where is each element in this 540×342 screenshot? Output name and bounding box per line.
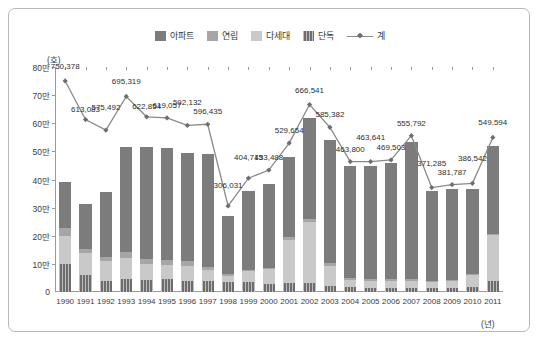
data-label: 555,792 xyxy=(397,119,426,128)
legend-item-계[interactable]: 계 xyxy=(347,31,385,41)
x-axis-tick-mark xyxy=(208,67,209,70)
x-axis-tick-mark xyxy=(228,67,229,70)
total-line-marker xyxy=(470,181,475,186)
legend-label: 아파트 xyxy=(170,31,194,41)
x-axis-tick-mark xyxy=(452,67,453,70)
legend-item-아파트[interactable]: 아파트 xyxy=(155,31,194,41)
x-axis-tick-label: 1994 xyxy=(138,292,156,306)
x-axis-tick-label: 2001 xyxy=(280,292,298,306)
data-label: 306,031 xyxy=(214,181,243,190)
total-line-marker xyxy=(490,135,495,140)
total-line-marker xyxy=(429,185,434,190)
x-axis-tick-mark xyxy=(167,67,168,70)
legend-swatch-icon xyxy=(303,31,314,41)
legend-label: 계 xyxy=(377,31,385,41)
data-label: 433,488 xyxy=(254,153,283,162)
x-axis-tick-label: 1992 xyxy=(97,292,115,306)
legend-label: 연립 xyxy=(222,31,238,41)
data-label: 381,787 xyxy=(438,168,467,177)
x-axis-tick-mark xyxy=(269,67,270,70)
x-axis-tick-label: 2008 xyxy=(423,292,441,306)
x-axis-tick-label: 2009 xyxy=(443,292,461,306)
x-axis-tick-mark xyxy=(126,67,127,70)
x-axis-tick-label: 2004 xyxy=(341,292,359,306)
x-axis-tick-mark xyxy=(350,67,351,70)
x-axis-tick-mark xyxy=(147,67,148,70)
total-line-marker xyxy=(185,123,190,128)
data-label: 529,654 xyxy=(275,126,304,135)
x-axis-tick-mark xyxy=(432,67,433,70)
x-axis-tick-mark xyxy=(86,67,87,70)
data-label: 371,285 xyxy=(417,159,446,168)
y-axis-tick-label: 0 xyxy=(45,287,55,297)
x-axis-tick-mark xyxy=(391,67,392,70)
x-axis-tick-label: 1996 xyxy=(178,292,196,306)
x-axis-tick-mark xyxy=(106,67,107,70)
x-axis-tick-label: 2007 xyxy=(402,292,420,306)
data-label: 549,594 xyxy=(478,118,507,127)
x-axis-tick-mark xyxy=(289,67,290,70)
legend-item-연립[interactable]: 연립 xyxy=(207,31,238,41)
legend-swatch-icon xyxy=(251,31,262,41)
x-axis-tick-label: 2003 xyxy=(321,292,339,306)
plot-area: 010만20만30만40만50만60만70만80만 19901991199219… xyxy=(55,67,503,292)
x-axis-tick-label: 1999 xyxy=(240,292,258,306)
data-label: 585,382 xyxy=(315,110,344,119)
x-axis-tick-mark xyxy=(411,67,412,70)
chart-frame: 아파트연립다세대단독계 (호) (년) 010만20만30만40만50만60만7… xyxy=(8,8,530,332)
x-axis-tick-label: 2006 xyxy=(382,292,400,306)
chart-legend: 아파트연립다세대단독계 xyxy=(9,31,531,41)
x-axis-tick-mark xyxy=(248,67,249,70)
total-line-marker xyxy=(368,159,373,164)
x-axis-tick-mark xyxy=(472,67,473,70)
total-line-series xyxy=(55,67,503,292)
x-axis-tick-mark xyxy=(187,67,188,70)
data-label: 386,542 xyxy=(458,154,487,163)
x-axis-tick-label: 1991 xyxy=(77,292,95,306)
x-axis-tick-label: 2002 xyxy=(301,292,319,306)
x-axis-tick-label: 1997 xyxy=(199,292,217,306)
data-label: 666,541 xyxy=(295,86,324,95)
data-label: 695,319 xyxy=(112,77,141,86)
x-axis-tick-label: 2010 xyxy=(464,292,482,306)
data-label: 469,503 xyxy=(377,143,406,152)
x-axis-tick-mark xyxy=(493,67,494,70)
total-line-marker xyxy=(63,78,68,83)
x-axis-tick-mark xyxy=(330,67,331,70)
legend-line-marker-icon xyxy=(347,31,373,41)
x-axis-tick-mark xyxy=(310,67,311,70)
x-axis-unit-label: (년) xyxy=(481,317,495,329)
legend-swatch-icon xyxy=(207,31,218,41)
x-axis-tick-mark xyxy=(371,67,372,70)
legend-label: 단독 xyxy=(318,31,334,41)
data-label: 575,492 xyxy=(91,103,120,112)
total-line-marker xyxy=(83,117,88,122)
legend-item-단독[interactable]: 단독 xyxy=(303,31,334,41)
total-line-marker xyxy=(205,122,210,127)
x-axis-tick-label: 2005 xyxy=(362,292,380,306)
total-line-marker xyxy=(164,115,169,120)
legend-item-다세대[interactable]: 다세대 xyxy=(251,31,290,41)
data-label: 596,435 xyxy=(193,107,222,116)
legend-swatch-icon xyxy=(155,31,166,41)
x-axis-tick-label: 1995 xyxy=(158,292,176,306)
x-axis-tick-label: 1990 xyxy=(56,292,74,306)
x-axis-tick-label: 2011 xyxy=(484,292,501,306)
data-label: 463,800 xyxy=(336,145,365,154)
x-axis-tick-label: 1998 xyxy=(219,292,237,306)
data-label: 463,641 xyxy=(356,133,385,142)
legend-label: 다세대 xyxy=(266,31,290,41)
data-label: 750,378 xyxy=(51,62,80,71)
data-label: 592,132 xyxy=(173,98,202,107)
x-axis-tick-label: 2000 xyxy=(260,292,278,306)
total-line-marker xyxy=(449,182,454,187)
x-axis-tick-label: 1993 xyxy=(117,292,135,306)
